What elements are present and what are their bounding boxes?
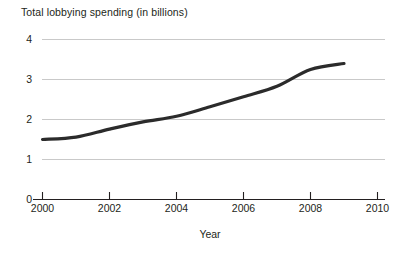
x-axis-tick-label-2000: 2000 [23,202,63,214]
x-axis-tick-label-2010: 2010 [358,202,398,214]
x-axis-tick-label-2002: 2002 [90,202,130,214]
y-axis-tick-label-3: 3 [18,73,32,85]
data-series-line [43,64,345,140]
y-axis-tick-label-1: 1 [18,153,32,165]
x-axis-tick-label-2004: 2004 [157,202,197,214]
x-axis-title: Year [150,228,270,240]
y-axis-tick-label-2: 2 [18,113,32,125]
x-axis [33,192,385,200]
chart-plot-area [0,0,408,254]
x-axis-tick-label-2006: 2006 [224,202,264,214]
gridlines [42,40,385,160]
chart-container: Total lobbying spending (in billions) 4 … [0,0,408,254]
x-axis-tick-label-2008: 2008 [291,202,331,214]
y-axis-tick-label-4: 4 [18,33,32,45]
